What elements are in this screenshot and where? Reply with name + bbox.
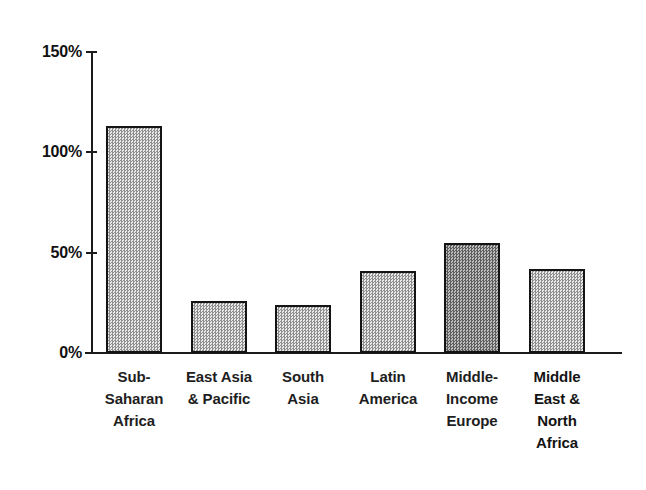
bar [360, 271, 416, 353]
category-label-line: Middle [507, 366, 607, 388]
y-axis-tick [86, 352, 97, 354]
y-axis-tick-label: 50% [8, 245, 82, 261]
bar [191, 301, 247, 353]
y-axis-line [91, 52, 93, 354]
category-label-line: Africa [507, 432, 607, 454]
y-axis-tick-labels: 150%100%50%0% [0, 0, 82, 490]
category-label-line: East & [507, 388, 607, 410]
y-axis-tick [86, 252, 97, 254]
y-axis-tick-label: 150% [8, 44, 82, 60]
y-axis-tick-label: 100% [8, 144, 82, 160]
category-label: MiddleEast &NorthAfrica [507, 366, 607, 454]
bar [106, 126, 162, 353]
y-axis-tick-label: 0% [8, 345, 82, 361]
category-label-line: North [507, 410, 607, 432]
chart-title [0, 0, 646, 5]
y-axis-tick [86, 151, 97, 153]
bar-chart-figure: 150%100%50%0% Sub-SaharanAfricaEast Asia… [0, 0, 646, 490]
bar [444, 243, 500, 353]
bar [529, 269, 585, 353]
bar [275, 305, 331, 353]
category-label-line: Africa [84, 410, 184, 432]
y-axis-tick [86, 51, 97, 53]
